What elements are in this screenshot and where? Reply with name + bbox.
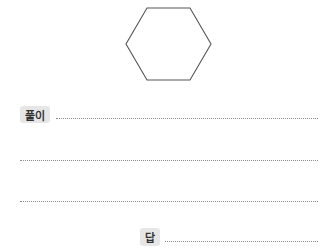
hexagon-icon xyxy=(120,4,220,88)
answer-line[interactable] xyxy=(165,241,318,242)
solution-line-2[interactable] xyxy=(20,160,318,161)
hexagon-figure xyxy=(120,4,220,92)
solution-label: 풀이 xyxy=(20,106,50,123)
solution-line-3[interactable] xyxy=(20,201,318,202)
solution-line-1[interactable] xyxy=(56,118,318,119)
answer-label: 답 xyxy=(140,228,160,246)
